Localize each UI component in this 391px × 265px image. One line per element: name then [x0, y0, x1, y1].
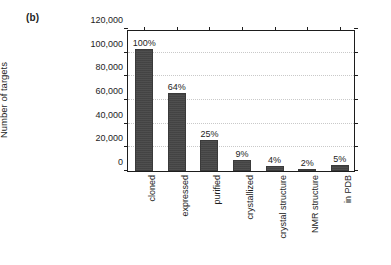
y-axis-tick-label: 80,000: [67, 63, 123, 72]
bar: 100%: [135, 49, 153, 171]
y-axis-tick-label: 0: [67, 158, 123, 167]
y-axis-tick-mark: [124, 52, 128, 53]
bar: 4%: [266, 166, 284, 171]
y-axis-tick-label: 20,000: [67, 134, 123, 143]
right-axis-tick-mark: [354, 99, 358, 100]
x-axis-category-label: NMR structure: [311, 175, 320, 233]
x-axis-category-label: cloned: [148, 175, 157, 202]
y-axis-tick-label: 40,000: [67, 110, 123, 119]
right-axis-tick-mark: [354, 52, 358, 53]
plot-area: 020,00040,00060,00080,000100,000120,000 …: [127, 30, 355, 172]
top-axis-tick-mark: [177, 27, 178, 31]
bar-value-label: 2%: [301, 158, 314, 168]
bar: 64%: [168, 93, 186, 171]
x-axis-category-label: expressed: [181, 175, 190, 217]
bar: 9%: [233, 160, 251, 171]
right-axis-tick-mark: [354, 75, 358, 76]
top-axis-tick-mark: [242, 27, 243, 31]
top-axis-tick-mark: [307, 27, 308, 31]
top-axis-tick-mark: [275, 27, 276, 31]
y-axis-tick-mark: [124, 75, 128, 76]
gridline: [128, 52, 354, 53]
gridline: [128, 146, 354, 147]
right-axis-tick-mark: [354, 146, 358, 147]
top-axis-tick-mark: [209, 27, 210, 31]
y-axis-tick-mark: [124, 28, 128, 29]
y-axis-title: Number of targets: [0, 30, 10, 170]
gridline: [128, 99, 354, 100]
right-axis-tick-mark: [354, 123, 358, 124]
y-axis-tick-label: 60,000: [67, 87, 123, 96]
bar: 5%: [331, 165, 349, 171]
x-axis-category-label: in PDB: [344, 175, 353, 203]
bar-value-label: 5%: [333, 154, 346, 164]
y-axis-tick-mark: [124, 99, 128, 100]
panel-label: (b): [26, 12, 39, 23]
y-axis-tick-mark: [124, 170, 128, 171]
bar-value-label: 4%: [268, 155, 281, 165]
bar-value-label: 9%: [235, 149, 248, 159]
y-axis-tick-mark: [124, 146, 128, 147]
bar-value-label: 64%: [168, 82, 186, 92]
bar-value-label: 25%: [200, 129, 218, 139]
x-axis-category-label: crystallized: [246, 175, 255, 220]
y-axis-tick-mark: [124, 123, 128, 124]
right-axis-tick-mark: [354, 170, 358, 171]
x-axis-category-label: purified: [213, 175, 222, 205]
figure-panel-b: (b) Number of targets 020,00040,00060,00…: [0, 0, 391, 265]
top-axis-tick-mark: [340, 27, 341, 31]
bar-value-label: 100%: [133, 38, 156, 48]
gridline: [128, 75, 354, 76]
gridline: [128, 123, 354, 124]
y-axis-tick-label: 120,000: [67, 16, 123, 25]
right-axis-tick-mark: [354, 28, 358, 29]
top-axis-tick-mark: [144, 27, 145, 31]
bar: 2%: [298, 169, 316, 171]
y-axis-tick-label: 100,000: [67, 39, 123, 48]
x-axis-category-label: crystal structure: [279, 175, 288, 239]
bar: 25%: [200, 140, 218, 171]
